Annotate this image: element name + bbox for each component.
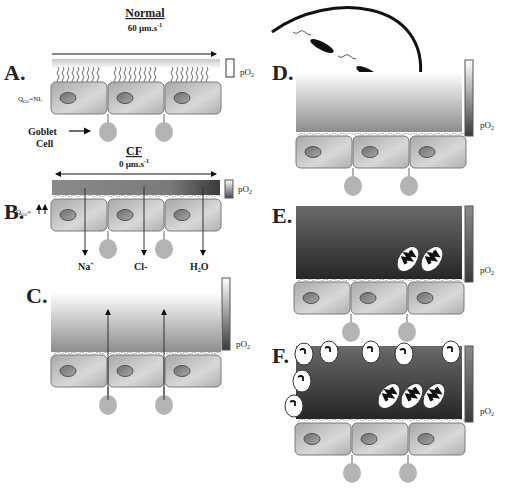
panel-a: Normal 60 µm.s-1 A. QO2=NL pO2 Goblet Ce… [4, 6, 254, 149]
panel-a-title: Normal [125, 6, 165, 20]
panel-d: D. pO2 [272, 8, 494, 196]
po2-scale [226, 59, 234, 77]
hypoxic-mucus [296, 72, 462, 132]
panel-c-label: C. [26, 283, 47, 308]
po2-label: pO2 [480, 406, 494, 417]
po2-label: pO2 [240, 67, 254, 78]
hypoxic-mucus [51, 292, 221, 352]
increase-arrows-icon [39, 205, 45, 214]
panel-b-velocity: 0 µm.s-1 [119, 158, 149, 169]
panel-b: CF 0 µm.s-1 B. QO2= pO2 Na+ Cl- H2O [4, 144, 252, 273]
panel-f: F. pO2 [272, 341, 494, 483]
qo2-normal: QO2=NL [18, 95, 42, 104]
po2-label: pO2 [480, 120, 494, 131]
panel-a-label: A. [4, 60, 25, 85]
panel-d-label: D. [272, 60, 293, 85]
ion-cl: Cl- [134, 261, 147, 272]
cilia [57, 67, 208, 83]
epithelial-cells [51, 199, 221, 259]
po2-label: pO2 [480, 265, 494, 276]
panel-e-label: E. [272, 203, 292, 228]
panel-e: E. pO2 [272, 203, 494, 342]
goblet-label: Goblet [28, 126, 58, 137]
panel-a-velocity: 60 µm.s-1 [128, 22, 163, 33]
epithelial-cells [296, 136, 466, 196]
invasion-arrow [272, 8, 421, 80]
mucus-layer [52, 59, 220, 67]
epithelial-cells [295, 423, 465, 483]
po2-scale [465, 346, 473, 422]
po2-scale [225, 180, 233, 198]
po2-scale [465, 206, 473, 282]
po2-scale [465, 60, 473, 136]
panel-b-title: CF [126, 144, 142, 158]
panel-f-label: F. [272, 343, 289, 368]
po2-label: pO2 [238, 184, 252, 195]
dehydrated-mucus [52, 180, 220, 195]
po2-label: pO2 [236, 339, 250, 350]
panel-c: C. pO2 [26, 278, 250, 415]
epithelial-cells [51, 82, 221, 142]
ion-na: Na+ [78, 261, 94, 272]
cf-airway-diagram: Normal 60 µm.s-1 A. QO2=NL pO2 Goblet Ce… [0, 0, 513, 491]
epithelial-cells [294, 282, 464, 342]
ion-h2o: H2O [190, 261, 209, 273]
anaerobic-mucus [296, 206, 462, 279]
cell-label: Cell [36, 138, 53, 149]
epithelial-cells [51, 355, 221, 415]
po2-scale [222, 278, 230, 350]
